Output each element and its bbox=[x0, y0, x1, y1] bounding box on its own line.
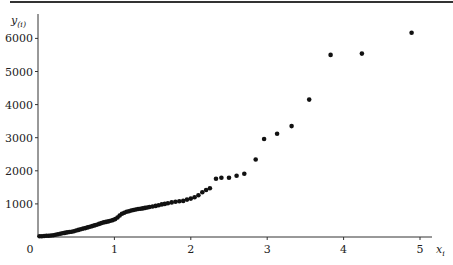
x-tick-label: 3 bbox=[264, 243, 271, 256]
x-tick-label: 1 bbox=[111, 243, 118, 256]
data-point bbox=[409, 31, 414, 36]
data-point bbox=[234, 174, 239, 179]
data-point bbox=[208, 186, 213, 191]
axes: 012345100020003000400050006000y(i)xi bbox=[5, 14, 445, 258]
x-axis-title: xi bbox=[436, 243, 445, 258]
y-axis-title: y(i) bbox=[10, 14, 26, 29]
y-tick-label: 1000 bbox=[5, 198, 33, 211]
data-points bbox=[37, 31, 414, 239]
x-tick-label: 4 bbox=[340, 243, 347, 256]
y-tick-label: 4000 bbox=[5, 99, 33, 112]
data-point bbox=[262, 137, 267, 142]
data-point bbox=[214, 176, 219, 181]
data-point bbox=[275, 131, 280, 136]
data-point bbox=[289, 124, 294, 129]
data-point bbox=[227, 176, 232, 181]
y-tick-label: 5000 bbox=[5, 66, 33, 79]
y-tick-label: 2000 bbox=[5, 165, 33, 178]
data-point bbox=[360, 51, 365, 56]
data-point bbox=[242, 172, 247, 177]
data-point bbox=[196, 193, 201, 198]
data-point bbox=[219, 176, 224, 181]
x-tick-label: 2 bbox=[187, 243, 194, 256]
data-point bbox=[328, 53, 333, 58]
scatter-plot: 012345100020003000400050006000y(i)xi bbox=[0, 0, 453, 265]
data-point bbox=[307, 97, 312, 102]
y-tick-label: 3000 bbox=[5, 132, 33, 145]
x-tick-label: 0 bbox=[27, 243, 34, 256]
x-tick-label: 5 bbox=[417, 243, 424, 256]
data-point bbox=[253, 157, 258, 162]
data-point bbox=[166, 201, 171, 206]
y-tick-label: 6000 bbox=[5, 32, 33, 45]
data-point bbox=[177, 199, 182, 204]
